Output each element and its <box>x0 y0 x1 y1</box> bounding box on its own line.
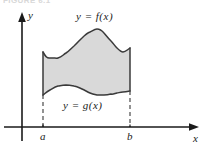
tick-label-a: a <box>40 131 46 142</box>
lower-curve-label: y = g(x) <box>63 100 103 111</box>
x-axis-arrowhead <box>189 123 199 131</box>
x-axis-label: x <box>193 133 198 144</box>
upper-curve-label: y = f(x) <box>76 11 113 22</box>
figure-container: FIGURE 6.1 y x a b y = f(x) y = g(x) <box>0 0 203 149</box>
area-between-curves-diagram <box>0 0 203 149</box>
y-axis-label: y <box>28 10 33 21</box>
tick-label-b: b <box>127 131 133 142</box>
y-axis-arrowhead <box>18 12 26 22</box>
shaded-region <box>43 29 130 95</box>
